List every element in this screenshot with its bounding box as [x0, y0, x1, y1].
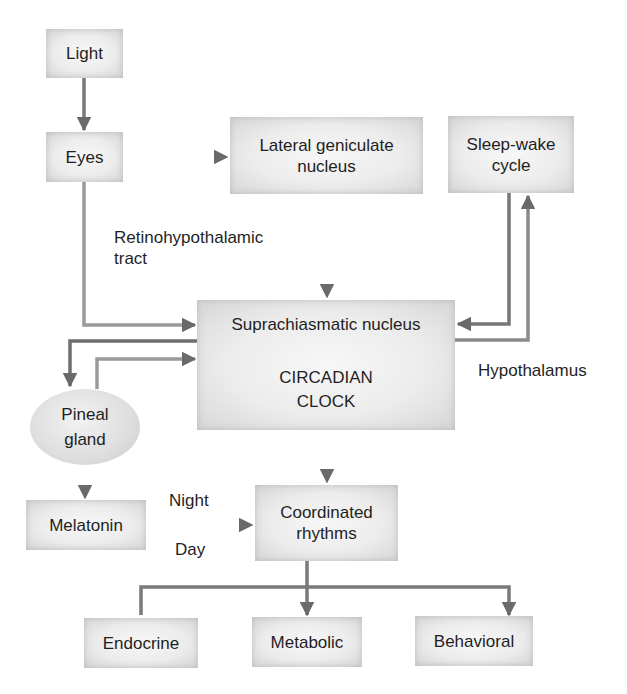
- sleep-wake-line2: cycle: [492, 155, 531, 176]
- node-metabolic-label: Metabolic: [271, 632, 344, 653]
- node-light-label: Light: [66, 43, 103, 64]
- arrow-sleepwake-to-scn: [458, 193, 509, 324]
- node-lateral-geniculate-nucleus: Lateral geniculate nucleus: [230, 117, 423, 194]
- sleep-wake-line1: Sleep-wake: [467, 134, 556, 155]
- hypothalamus-label: Hypothalamus: [478, 360, 587, 381]
- node-eyes-label: Eyes: [66, 147, 104, 168]
- scn-line2: CLOCK: [197, 390, 455, 414]
- node-behavioral: Behavioral: [415, 616, 533, 666]
- node-light: Light: [46, 29, 123, 78]
- node-coordinated-rhythms: Coordinated rhythms: [255, 485, 398, 561]
- arrow-coordinated-branch: [141, 587, 509, 615]
- node-endocrine-label: Endocrine: [103, 633, 180, 654]
- coordinated-line1: Coordinated: [280, 502, 373, 523]
- node-metabolic: Metabolic: [252, 617, 362, 667]
- scn-title: Suprachiasmatic nucleus: [197, 314, 455, 335]
- retino-line1: Retinohypothalamic: [114, 227, 263, 248]
- node-suprachiasmatic-nucleus: Suprachiasmatic nucleus CIRCADIAN CLOCK: [197, 300, 455, 430]
- pineal-line2: gland: [64, 427, 106, 452]
- node-melatonin: Melatonin: [26, 500, 146, 550]
- circadian-clock-label: CIRCADIAN CLOCK: [197, 366, 455, 414]
- node-sleep-wake-cycle: Sleep-wake cycle: [448, 116, 574, 193]
- day-label: Day: [175, 539, 205, 560]
- coordinated-line2: rhythms: [296, 523, 356, 544]
- pineal-line1: Pineal: [61, 402, 108, 427]
- node-eyes: Eyes: [46, 132, 123, 182]
- night-label: Night: [169, 490, 209, 511]
- retinohypothalamic-tract-label: Retinohypothalamic tract: [114, 227, 263, 269]
- arrow-scn-to-sleepwake: [455, 196, 528, 340]
- arrow-pineal-to-scn: [97, 359, 195, 389]
- node-endocrine: Endocrine: [84, 618, 198, 668]
- arrow-scn-to-pineal: [70, 341, 197, 386]
- lgn-line1: Lateral geniculate: [259, 135, 393, 156]
- scn-line1: CIRCADIAN: [197, 366, 455, 390]
- node-melatonin-label: Melatonin: [49, 515, 123, 536]
- node-pineal-gland: Pineal gland: [30, 389, 140, 465]
- node-behavioral-label: Behavioral: [434, 631, 514, 652]
- lgn-line2: nucleus: [297, 156, 356, 177]
- retino-line2: tract: [114, 248, 263, 269]
